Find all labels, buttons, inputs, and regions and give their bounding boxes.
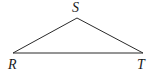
vertex-label-s: S: [72, 1, 79, 15]
vertex-label-t: T: [137, 58, 145, 72]
side-rs: [13, 18, 77, 53]
side-st: [77, 18, 143, 53]
vertex-label-r: R: [8, 58, 17, 72]
triangle-diagram: S R T: [0, 0, 155, 83]
